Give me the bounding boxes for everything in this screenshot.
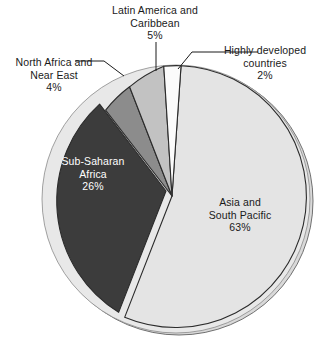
slice-value-highly-developed: 2% [204, 69, 326, 82]
slice-value-asia: 63% [188, 221, 292, 234]
slice-label-sub-saharan-line1: Sub-Saharan [38, 155, 148, 168]
slice-label-highly-developed: Highly developed countries 2% [204, 44, 326, 82]
slice-label-highly-developed-line1: Highly developed [204, 44, 326, 57]
slice-label-asia-line2: South Pacific [188, 209, 292, 222]
slice-label-asia-line1: Asia and [188, 196, 292, 209]
slice-value-sub-saharan: 26% [38, 180, 148, 193]
slice-value-latin-america: 5% [96, 29, 214, 42]
pie-chart: Latin America and Caribbean 5% Highly de… [0, 0, 330, 347]
slice-label-latin-america-line1: Latin America and [96, 4, 214, 17]
slice-label-latin-america-line2: Caribbean [96, 17, 214, 30]
slice-label-north-africa-line1: North Africa and [2, 56, 106, 69]
slice-label-asia: Asia and South Pacific 63% [188, 196, 292, 234]
slice-label-highly-developed-line2: countries [204, 57, 326, 70]
slice-value-north-africa: 4% [2, 81, 106, 94]
slice-label-north-africa: North Africa and Near East 4% [2, 56, 106, 94]
slice-label-latin-america: Latin America and Caribbean 5% [96, 4, 214, 42]
slice-label-sub-saharan: Sub-Saharan Africa 26% [38, 155, 148, 193]
slice-label-north-africa-line2: Near East [2, 69, 106, 82]
slice-label-sub-saharan-line2: Africa [38, 168, 148, 181]
